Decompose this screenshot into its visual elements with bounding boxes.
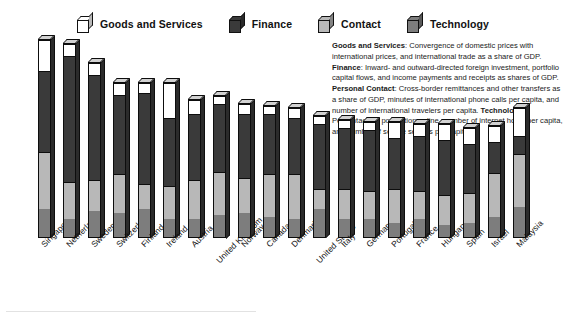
bar-segment-contact[interactable] bbox=[64, 182, 75, 219]
bar-segment-finance[interactable] bbox=[314, 124, 325, 189]
stacked-bar[interactable] bbox=[63, 43, 76, 238]
bar-segment-contact[interactable] bbox=[39, 152, 50, 209]
stacked-bar[interactable] bbox=[463, 127, 476, 238]
bar-segment-contact[interactable] bbox=[114, 174, 125, 212]
stacked-bar[interactable] bbox=[513, 107, 526, 238]
bar-segment-finance[interactable] bbox=[64, 56, 75, 182]
stacked-bar[interactable] bbox=[413, 123, 426, 238]
bar-segment-goods-and-services[interactable] bbox=[439, 124, 450, 140]
stacked-bar[interactable] bbox=[263, 105, 276, 238]
bar-segment-goods-and-services[interactable] bbox=[389, 122, 400, 138]
bar-group[interactable] bbox=[288, 107, 306, 238]
stacked-bar[interactable] bbox=[138, 82, 151, 238]
bar-segment-contact[interactable] bbox=[364, 191, 375, 219]
bar-segment-finance[interactable] bbox=[189, 114, 200, 181]
bar-group[interactable] bbox=[313, 115, 331, 238]
stacked-bar[interactable] bbox=[388, 121, 401, 238]
bar-segment-goods-and-services[interactable] bbox=[364, 122, 375, 130]
stacked-bar[interactable] bbox=[488, 125, 501, 238]
bar-segment-finance[interactable] bbox=[439, 140, 450, 194]
bar-segment-contact[interactable] bbox=[289, 174, 300, 218]
bar-group[interactable] bbox=[138, 82, 156, 238]
bar-segment-finance[interactable] bbox=[389, 138, 400, 188]
stacked-bar[interactable] bbox=[163, 82, 176, 238]
bar-segment-goods-and-services[interactable] bbox=[139, 83, 150, 93]
bar-segment-goods-and-services[interactable] bbox=[464, 128, 475, 144]
bar-segment-goods-and-services[interactable] bbox=[264, 106, 275, 114]
bar-segment-finance[interactable] bbox=[464, 144, 475, 192]
stacked-bar[interactable] bbox=[188, 99, 201, 238]
bar-segment-goods-and-services[interactable] bbox=[514, 108, 525, 136]
bar-segment-contact[interactable] bbox=[339, 189, 350, 219]
bar-segment-goods-and-services[interactable] bbox=[289, 108, 300, 118]
bar-segment-finance[interactable] bbox=[139, 93, 150, 184]
bar-segment-contact[interactable] bbox=[139, 184, 150, 208]
bar-segment-contact[interactable] bbox=[314, 189, 325, 209]
bar-segment-contact[interactable] bbox=[514, 154, 525, 206]
bar-segment-finance[interactable] bbox=[339, 128, 350, 188]
stacked-bar[interactable] bbox=[363, 121, 376, 238]
bar-segment-finance[interactable] bbox=[114, 95, 125, 174]
bar-group[interactable] bbox=[63, 43, 81, 238]
bar-segment-technology[interactable] bbox=[314, 209, 325, 237]
bar-segment-goods-and-services[interactable] bbox=[489, 126, 500, 142]
bar-segment-goods-and-services[interactable] bbox=[114, 83, 125, 95]
stacked-bar[interactable] bbox=[338, 119, 351, 238]
bar-segment-goods-and-services[interactable] bbox=[164, 83, 175, 117]
bar-group[interactable] bbox=[513, 107, 531, 238]
bar-group[interactable] bbox=[438, 123, 456, 238]
bar-segment-finance[interactable] bbox=[164, 118, 175, 187]
bar-segment-contact[interactable] bbox=[264, 174, 275, 216]
bar-segment-goods-and-services[interactable] bbox=[189, 100, 200, 114]
bar-group[interactable] bbox=[238, 103, 256, 238]
bar-group[interactable] bbox=[38, 39, 56, 238]
stacked-bar[interactable] bbox=[213, 95, 226, 239]
stacked-bar[interactable] bbox=[113, 82, 126, 238]
stacked-bar[interactable] bbox=[38, 39, 51, 238]
bar-segment-contact[interactable] bbox=[464, 193, 475, 223]
bar-segment-contact[interactable] bbox=[89, 180, 100, 210]
bar-segment-finance[interactable] bbox=[364, 130, 375, 190]
bar-group[interactable] bbox=[388, 121, 406, 238]
bar-group[interactable] bbox=[163, 82, 181, 238]
stacked-bar[interactable] bbox=[88, 62, 101, 238]
bar-segment-contact[interactable] bbox=[489, 173, 500, 217]
bar-group[interactable] bbox=[463, 127, 481, 238]
bar-segment-finance[interactable] bbox=[89, 75, 100, 180]
bar-segment-finance[interactable] bbox=[414, 136, 425, 190]
bar-group[interactable] bbox=[88, 62, 106, 238]
bar-segment-goods-and-services[interactable] bbox=[239, 104, 250, 114]
bar-segment-contact[interactable] bbox=[164, 186, 175, 218]
bar-segment-finance[interactable] bbox=[289, 118, 300, 175]
bar-segment-contact[interactable] bbox=[414, 191, 425, 219]
bar-segment-finance[interactable] bbox=[264, 114, 275, 175]
bar-segment-finance[interactable] bbox=[489, 142, 500, 172]
bar-group[interactable] bbox=[263, 105, 281, 238]
stacked-bar[interactable] bbox=[313, 115, 326, 238]
bar-segment-goods-and-services[interactable] bbox=[314, 116, 325, 124]
stacked-bar[interactable] bbox=[238, 103, 251, 238]
bar-segment-finance[interactable] bbox=[514, 136, 525, 154]
stacked-bar[interactable] bbox=[438, 123, 451, 238]
bar-group[interactable] bbox=[363, 121, 381, 238]
bar-group[interactable] bbox=[188, 99, 206, 238]
stacked-bar[interactable] bbox=[288, 107, 301, 238]
bar-segment-goods-and-services[interactable] bbox=[64, 44, 75, 56]
bar-segment-goods-and-services[interactable] bbox=[89, 63, 100, 75]
bar-group[interactable] bbox=[113, 82, 131, 238]
bar-group[interactable] bbox=[338, 119, 356, 238]
bar-segment-contact[interactable] bbox=[389, 189, 400, 223]
bar-group[interactable] bbox=[488, 125, 506, 238]
bar-segment-finance[interactable] bbox=[239, 114, 250, 179]
bar-segment-technology[interactable] bbox=[214, 215, 225, 237]
bar-group[interactable] bbox=[413, 123, 431, 238]
bar-segment-finance[interactable] bbox=[39, 71, 50, 152]
bar-segment-contact[interactable] bbox=[239, 178, 250, 212]
bar-segment-finance[interactable] bbox=[214, 104, 225, 173]
bar-segment-goods-and-services[interactable] bbox=[414, 124, 425, 136]
bar-segment-contact[interactable] bbox=[214, 172, 225, 214]
bar-segment-contact[interactable] bbox=[439, 195, 450, 225]
bar-segment-contact[interactable] bbox=[189, 180, 200, 218]
bar-segment-goods-and-services[interactable] bbox=[339, 120, 350, 128]
bar-group[interactable] bbox=[213, 95, 231, 239]
